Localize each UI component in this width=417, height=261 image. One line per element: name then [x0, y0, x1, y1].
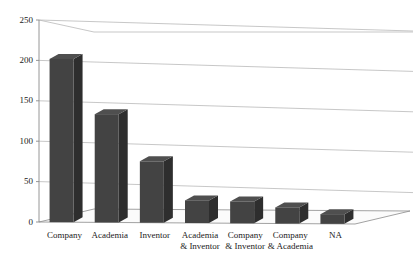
bar-front-face — [140, 161, 164, 222]
bar-side-face — [74, 54, 83, 222]
y-axis-tick-label: 0 — [29, 217, 34, 227]
y-axis-tick-label: 100 — [20, 136, 34, 146]
bar-chart-3d: 050100150200250 NACompany& AcademiaCompa… — [0, 0, 417, 261]
bar — [185, 195, 218, 223]
bar — [50, 54, 83, 222]
x-axis-tick-label: Academia — [91, 230, 127, 240]
bar — [140, 156, 173, 222]
y-axis-tick-label: 250 — [20, 15, 34, 25]
x-axis-tick-label: Company — [228, 230, 263, 240]
bar-front-face — [95, 114, 119, 222]
x-axis-tick-label: Company — [47, 230, 82, 240]
bar — [275, 202, 308, 223]
y-axis-tick-label: 50 — [24, 176, 34, 186]
bar-front-face — [50, 59, 74, 222]
y-axis-tick-label: 150 — [20, 95, 34, 105]
bar — [230, 196, 263, 223]
chart-canvas: 050100150200250 NACompany& AcademiaCompa… — [0, 0, 417, 261]
x-axis-tick-label: & Inventor — [180, 241, 220, 251]
x-axis-tick-label: Company — [273, 230, 308, 240]
bar-front-face — [320, 214, 344, 224]
chart-floor — [39, 209, 410, 224]
bar-front-face — [185, 200, 209, 223]
x-axis-tick-label: NA — [329, 230, 342, 240]
x-axis-tick-label: & Academia — [268, 241, 313, 251]
bar-side-face — [119, 109, 128, 222]
x-axis-tick-label: & Inventor — [225, 241, 265, 251]
bar-front-face — [230, 201, 254, 223]
floor-plane — [39, 209, 410, 224]
x-axis-tick-label: Inventor — [140, 230, 171, 240]
bar-side-face — [164, 156, 173, 222]
bar-front-face — [275, 207, 299, 223]
x-axis-tick-label: Academia — [182, 230, 218, 240]
y-axis-tick-label: 200 — [20, 55, 34, 65]
bar — [95, 109, 128, 222]
